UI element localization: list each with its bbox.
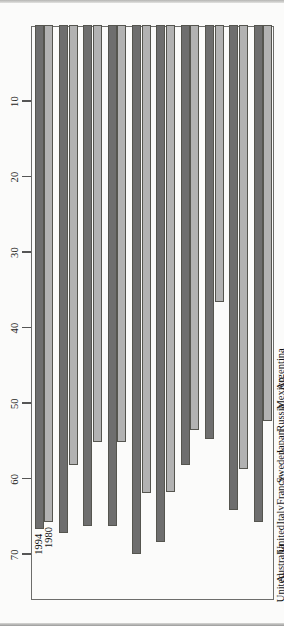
- bar-1980-united-kingdom: [93, 25, 102, 442]
- category-label-argentina: Argentina: [276, 348, 284, 390]
- bar-1994-united-kingdom: [83, 25, 92, 526]
- category-axis: United StatesAustraliaUnited KingdomItal…: [274, 26, 284, 600]
- bar-1980-australia: [69, 25, 78, 465]
- bar-1980-sweden: [166, 25, 175, 492]
- bar-1994-france: [132, 25, 141, 554]
- bar-1994-mexico: [229, 25, 238, 510]
- axis-tick: [22, 327, 31, 328]
- bar-1994-australia: [59, 25, 68, 533]
- bar-1980-france: [142, 25, 151, 493]
- category-label-united-kingdom: United Kingdom: [276, 519, 284, 559]
- axis-tick-label: 20: [9, 172, 20, 183]
- category-label-sweden: Sweden: [276, 450, 284, 483]
- axis-tick: [22, 176, 31, 177]
- chart-page: 70605040302010 19941980 United StatesAus…: [0, 0, 284, 626]
- bar-1980-japan: [190, 25, 199, 430]
- category-label-japan: Japan: [276, 430, 284, 454]
- category-label-italy: Italy: [276, 505, 284, 524]
- axis-tick: [22, 100, 31, 101]
- axis-tick: [22, 478, 31, 479]
- page-edge-right: [0, 0, 284, 3]
- series-annotation-1980: 1980: [43, 527, 54, 548]
- bar-1994-sweden: [156, 25, 165, 542]
- axis-tick: [22, 251, 31, 252]
- axis-tick-label: 50: [9, 398, 20, 409]
- axis-tick-label: 40: [9, 323, 20, 334]
- rotated-chart-canvas: 70605040302010 19941980 United StatesAus…: [0, 0, 284, 626]
- axis-tick-label: 60: [9, 474, 20, 485]
- bar-1994-united-states: [35, 25, 44, 529]
- bar-1980-argentina: [263, 25, 272, 421]
- bar-1994-argentina: [254, 25, 263, 522]
- bar-1994-japan: [181, 25, 190, 465]
- axis-tick-label: 10: [9, 96, 20, 107]
- plot-area: 19941980: [31, 26, 274, 600]
- bar-1994-italy: [108, 25, 117, 526]
- bar-1980-italy: [117, 25, 126, 442]
- axis-tick: [22, 553, 31, 554]
- bar-1980-united-states: [44, 25, 53, 522]
- axis-tick: [22, 402, 31, 403]
- bar-1980-russia: [215, 25, 224, 302]
- axis-tick-label: 30: [9, 247, 20, 258]
- bar-1994-russia: [205, 25, 214, 439]
- value-axis: 70605040302010: [0, 26, 31, 600]
- axis-tick-label: 70: [9, 549, 20, 560]
- bar-1980-mexico: [239, 25, 248, 469]
